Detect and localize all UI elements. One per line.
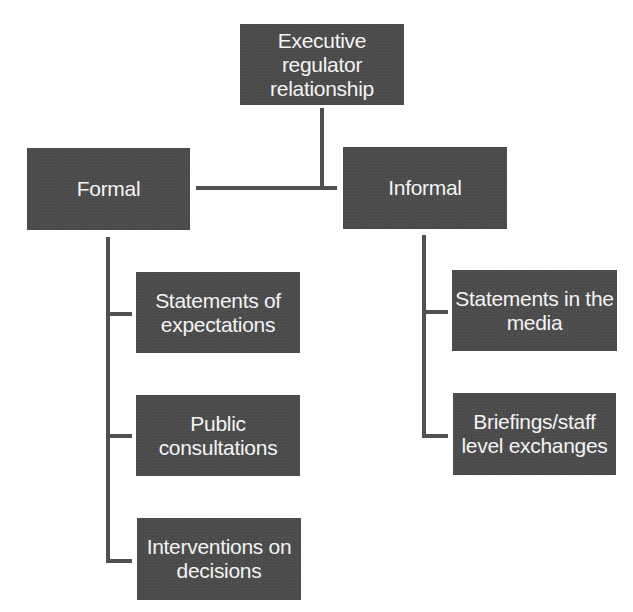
node-label: Interventions on decisions	[147, 535, 292, 583]
connector-root-down	[320, 108, 324, 190]
node-formal-label: Formal	[77, 177, 141, 201]
node-root: Executive regulator relationship	[240, 24, 404, 105]
node-statements-of-expectations: Statements of expectations	[136, 272, 300, 353]
connector-informal-child-1	[422, 310, 448, 314]
node-label: Public consultations	[159, 412, 278, 460]
node-statements-in-the-media: Statements in the media	[452, 270, 617, 351]
connector-formal-child-1	[106, 312, 132, 316]
node-informal: Informal	[343, 147, 507, 229]
connector-informal-child-2	[422, 434, 448, 438]
node-interventions-on-decisions: Interventions on decisions	[137, 518, 301, 600]
connector-formal-child-3	[106, 559, 132, 563]
node-briefings-staff-level-exchanges: Briefings/staff level exchanges	[453, 393, 616, 475]
node-root-label: Executive regulator relationship	[270, 29, 374, 101]
node-label: Statements of expectations	[155, 289, 281, 337]
node-label: Statements in the media	[455, 287, 613, 335]
connector-formal-trunk	[106, 237, 110, 563]
connector-informal-trunk	[422, 235, 426, 438]
node-public-consultations: Public consultations	[136, 395, 300, 476]
connector-formal-child-2	[106, 434, 132, 438]
node-formal: Formal	[27, 148, 190, 230]
node-label: Briefings/staff level exchanges	[461, 410, 607, 458]
connector-formal-informal	[196, 186, 337, 190]
node-informal-label: Informal	[388, 176, 461, 200]
